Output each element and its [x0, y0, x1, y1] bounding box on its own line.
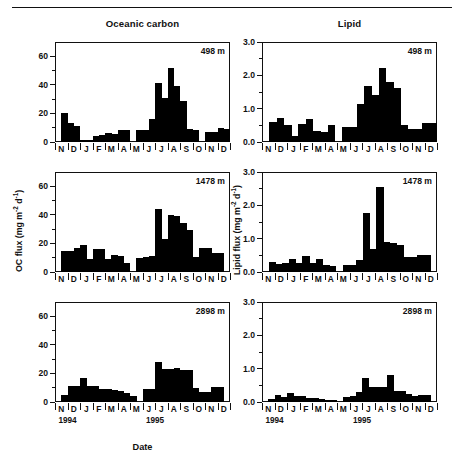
- x-axis-tick: [300, 273, 301, 280]
- x-axis-tick: [218, 143, 219, 150]
- y-axis-title-lipid-exp2: -1: [230, 188, 237, 194]
- x-axis-tick: [362, 273, 363, 280]
- x-axis-tick: [412, 273, 413, 280]
- x-axis-tick: [118, 143, 119, 150]
- chart-panel-oc-2898: 2898 m0204060NDJFMAMJJASOND19941995: [55, 302, 230, 402]
- y-axis-tick-minor: [52, 257, 55, 258]
- x-axis-month-label: N: [415, 274, 421, 284]
- x-axis-month-label: D: [221, 144, 227, 154]
- x-axis-tick: [93, 403, 94, 410]
- x-axis-year-label: 1994: [58, 416, 76, 425]
- x-axis-month-label: N: [58, 274, 64, 284]
- x-axis-month-label: J: [84, 404, 89, 414]
- x-axis-tick: [130, 143, 131, 150]
- x-axis-month-label: F: [96, 144, 101, 154]
- x-axis-tick: [375, 403, 376, 410]
- plot-area: [262, 172, 437, 272]
- x-axis-month-label: M: [315, 144, 322, 154]
- x-axis-tick: [68, 143, 69, 150]
- y-axis-tick-major: [50, 373, 55, 374]
- x-axis-tick: [375, 273, 376, 280]
- x-axis-month-label: A: [328, 274, 334, 284]
- y-axis-title-oc: OC flux (mg m-2 d-1): [14, 190, 24, 272]
- x-axis-month-label: F: [303, 404, 308, 414]
- y-axis-title-oc-exp2: -1: [12, 193, 19, 199]
- x-axis-tick: [350, 403, 351, 410]
- y-axis-tick-label: 0.0: [229, 397, 255, 407]
- x-axis-tick: [105, 403, 106, 410]
- x-axis-tick: [168, 143, 169, 150]
- x-axis-month-label: F: [96, 274, 101, 284]
- depth-annotation: 1478 m: [403, 176, 432, 186]
- x-axis-tick: [437, 143, 438, 150]
- x-axis-year-label: 1995: [146, 416, 164, 425]
- bar: [218, 253, 225, 272]
- x-axis-year-label: 1994: [265, 416, 283, 425]
- y-axis-tick-minor: [259, 318, 262, 319]
- x-axis-tick: [350, 143, 351, 150]
- y-axis-tick-label: 40: [22, 80, 48, 90]
- chart-panel-lipid-2898: 2898 m0.01.02.03.0NDJFMAMJJASOND19941995: [262, 302, 437, 402]
- y-axis-tick-label: 60: [22, 181, 48, 191]
- plot-area: [262, 302, 437, 402]
- x-axis-tick: [155, 143, 156, 150]
- depth-annotation: 2898 m: [196, 306, 225, 316]
- x-axis-month-label: J: [291, 404, 296, 414]
- bar: [425, 395, 432, 402]
- y-axis-tick-label: 3.0: [229, 297, 255, 307]
- x-axis-tick: [325, 403, 326, 410]
- x-axis-tick: [193, 273, 194, 280]
- depth-annotation: 2898 m: [403, 306, 432, 316]
- x-axis-tick: [375, 143, 376, 150]
- x-axis-month-label: J: [291, 144, 296, 154]
- x-axis-month-label: A: [121, 404, 127, 414]
- x-axis-tick: [350, 273, 351, 280]
- y-axis-tick-label: 60: [22, 51, 48, 61]
- y-axis-tick-label: 1.0: [229, 364, 255, 374]
- x-axis-month-label: M: [108, 274, 115, 284]
- x-axis-month-label: J: [146, 404, 151, 414]
- x-axis-tick: [118, 273, 119, 280]
- x-axis-tick: [362, 403, 363, 410]
- x-axis-month-label: J: [353, 404, 358, 414]
- x-axis-month-label: D: [221, 404, 227, 414]
- y-axis-tick-minor: [52, 387, 55, 388]
- y-axis-tick-minor: [259, 58, 262, 59]
- x-axis-tick: [155, 273, 156, 280]
- y-axis-tick-minor: [52, 330, 55, 331]
- x-axis-tick: [300, 403, 301, 410]
- depth-annotation: 498 m: [201, 46, 225, 56]
- y-axis-tick-minor: [52, 359, 55, 360]
- x-axis-month-label: J: [353, 274, 358, 284]
- y-axis-tick-major: [257, 302, 262, 303]
- x-axis-month-label: N: [415, 404, 421, 414]
- x-axis-month-label: A: [171, 274, 177, 284]
- x-axis-tick: [262, 403, 263, 410]
- y-axis-tick-minor: [259, 352, 262, 353]
- x-axis-tick: [168, 403, 169, 410]
- y-axis-title-lipid: Lipid flux (mg m-2 d-1): [232, 185, 242, 275]
- x-axis-tick: [387, 143, 388, 150]
- y-axis-tick-label: 0: [22, 397, 48, 407]
- y-axis-tick-major: [50, 214, 55, 215]
- x-axis-month-label: A: [121, 144, 127, 154]
- x-axis-month-label: J: [366, 404, 371, 414]
- x-axis-month-label: D: [428, 404, 434, 414]
- header-rule: [12, 7, 452, 8]
- x-axis-tick: [325, 143, 326, 150]
- y-axis-tick-label: 3.0: [229, 37, 255, 47]
- y-axis-tick-label: 40: [22, 210, 48, 220]
- y-axis-tick-major: [50, 344, 55, 345]
- x-axis-month-label: D: [278, 274, 284, 284]
- x-axis-month-label: S: [183, 144, 189, 154]
- bar: [424, 255, 431, 272]
- y-axis-tick-minor: [259, 222, 262, 223]
- x-axis-tick: [412, 143, 413, 150]
- x-axis-month-label: M: [133, 274, 140, 284]
- x-axis-month-label: F: [96, 404, 101, 414]
- y-axis-title-oc-exp1: -2: [12, 206, 19, 212]
- x-axis-month-label: M: [133, 404, 140, 414]
- x-axis-month-label: D: [71, 274, 77, 284]
- x-axis-tick: [105, 273, 106, 280]
- x-axis-month-label: A: [121, 274, 127, 284]
